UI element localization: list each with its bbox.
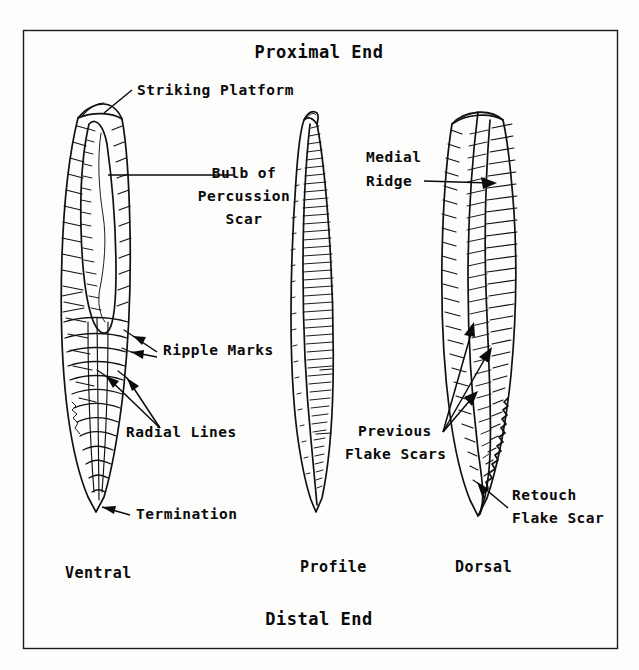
callout-radial-lines: Radial Lines: [126, 424, 237, 440]
profile-break-mark-2: [316, 433, 331, 434]
ventral-outline: [61, 114, 130, 512]
ripple-arrowhead-lower: [131, 350, 144, 359]
ventral-left-edge-hatching: [62, 126, 96, 402]
termination-leader: [102, 506, 130, 515]
ventral-radial-lines: [88, 318, 108, 500]
callout-bulb-line-3: Scar: [226, 211, 263, 227]
ventral-ripple-marks: [64, 318, 128, 493]
radial-arrowhead-upper: [127, 378, 139, 391]
ventral-facet-break: [62, 292, 82, 296]
callout-previous-flake-scars-line-1: Previous: [358, 423, 432, 439]
flake-scar-arrowhead-short: [464, 391, 478, 406]
profile-flake-drawing: [291, 112, 333, 512]
profile-break-mark-1: [320, 369, 332, 370]
figure-border: [24, 31, 618, 649]
dorsal-flake-drawing: [442, 112, 517, 516]
view-label-ventral: Ventral: [65, 564, 132, 582]
proximal-end-title: Proximal End: [255, 42, 384, 62]
ventral-facet-break-2: [63, 308, 84, 312]
dorsal-right-facet-hatching: [484, 124, 517, 476]
callout-retouch-flake-scar-line-2: Flake Scar: [512, 510, 604, 526]
callout-ripple-marks: Ripple Marks: [163, 342, 274, 358]
view-label-dorsal: Dorsal: [455, 558, 512, 576]
dorsal-central-facet-hatching: [467, 130, 491, 458]
ventral-flake-drawing: [61, 103, 131, 512]
striking-platform-edge: [78, 104, 122, 119]
figure-root: Proximal End Distal End Striking Platfor…: [0, 0, 639, 670]
callout-striking-platform: Striking Platform: [137, 82, 294, 98]
view-label-profile: Profile: [300, 558, 367, 576]
callout-medial-ridge-line-1: Medial: [366, 149, 421, 165]
callout-termination: Termination: [136, 506, 238, 522]
bulb-inner-fracture-line: [99, 133, 105, 322]
callout-retouch-flake-scar-line-1: Retouch: [512, 487, 577, 503]
callout-bulb-line-2: Percussion: [198, 188, 290, 204]
striking-platform-leader: [104, 90, 132, 113]
flake-anatomy-illustration: Proximal End Distal End Striking Platfor…: [0, 0, 639, 670]
distal-end-title: Distal End: [265, 609, 372, 629]
callout-bulb-line-1: Bulb of: [212, 165, 277, 181]
callout-previous-flake-scars-line-2: Flake Scars: [345, 446, 447, 462]
callout-medial-ridge-line-2: Ridge: [366, 173, 412, 189]
termination-arrowhead: [102, 506, 116, 514]
